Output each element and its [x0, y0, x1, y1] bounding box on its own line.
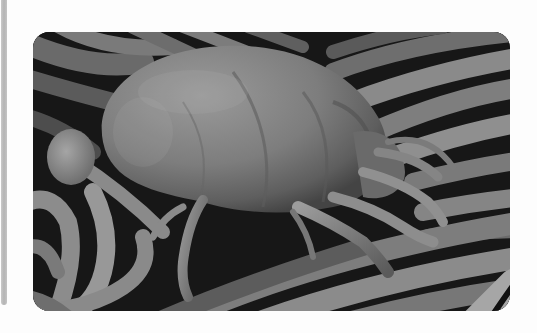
sem-photo: Scanning electron micrograph of a dust m… — [33, 32, 510, 311]
side-bar — [1, 0, 7, 305]
dust-mite-micrograph — [33, 32, 510, 311]
